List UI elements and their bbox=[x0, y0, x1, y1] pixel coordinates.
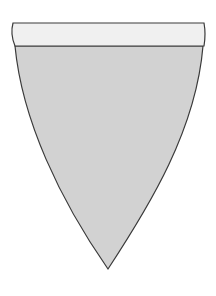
pennant-body bbox=[15, 46, 203, 269]
pennant-top-band bbox=[12, 23, 205, 46]
pennant-figure bbox=[0, 0, 216, 296]
